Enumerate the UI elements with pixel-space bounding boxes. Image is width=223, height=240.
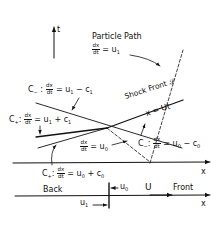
back-label: Back	[43, 186, 62, 194]
u0-label: u0	[120, 183, 128, 192]
u0-path-pointer	[112, 141, 127, 145]
front-label: Front	[173, 184, 193, 192]
t-axis-label: t	[57, 26, 60, 34]
U-label: U	[145, 183, 152, 192]
particle-path-label: Particle Path dxdt = u1	[92, 33, 142, 56]
c-minus-0-label: C−: dxdt = u0 − c0	[138, 137, 200, 150]
c-plus-0-pointer	[52, 145, 57, 165]
particle-path-title: Particle Path	[92, 33, 142, 41]
x-axis-upper	[13, 162, 210, 163]
x-axis-lower	[15, 195, 210, 196]
c-plus-0-label: C+: dxdt = u0 + c0	[42, 167, 104, 180]
u1-label: u1	[80, 199, 88, 208]
c-minus-1-label: C− : dxdt = u1 − c1	[28, 83, 93, 96]
x-axis-lower-label: x	[201, 200, 206, 208]
particle-path-pointer	[130, 55, 160, 66]
c-minus-0-pointer	[141, 124, 145, 135]
c-minus-1-pointer	[72, 98, 79, 110]
c-plus-1-label: C+: dxdt = u1 + c1	[9, 113, 71, 126]
u0-path-label: dxdt = u0	[80, 140, 108, 153]
c-plus-1-line	[36, 128, 107, 137]
x-axis-upper-label: x	[201, 168, 206, 176]
particle-path-equation: dxdt = u1	[92, 43, 142, 56]
